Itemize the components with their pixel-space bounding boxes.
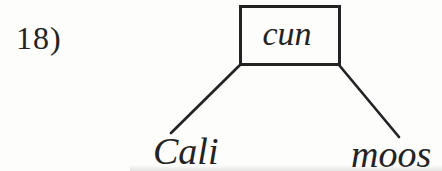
- branch-line-right-icon: [339, 65, 399, 137]
- problem-number: 18): [16, 22, 62, 54]
- leaf-label-right: moos: [351, 135, 431, 171]
- root-node-label: cun: [262, 17, 317, 55]
- worksheet-tree-figure: 18) cun Cali moos: [0, 0, 442, 171]
- leaf-label-left: Cali: [153, 132, 218, 170]
- root-node-box: cun: [239, 5, 341, 66]
- branch-line-left-icon: [171, 64, 241, 133]
